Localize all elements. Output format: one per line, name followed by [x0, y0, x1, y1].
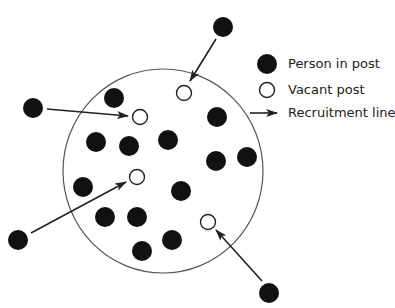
legend-label-person-in-post: Person in post	[288, 56, 380, 72]
legend-label-recruitment-line: Recruitment line	[288, 105, 395, 121]
legend-label-vacant-post: Vacant post	[288, 82, 365, 98]
